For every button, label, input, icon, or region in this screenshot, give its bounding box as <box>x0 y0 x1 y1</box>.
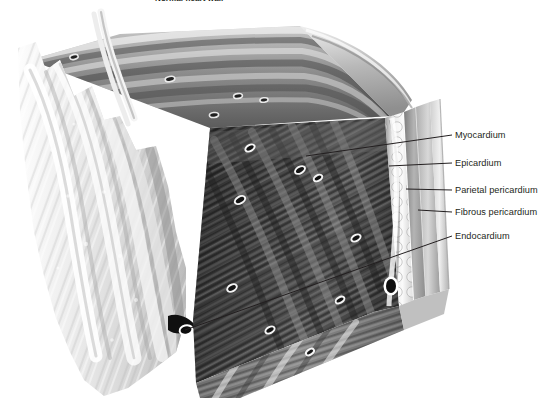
label-fibrous-pericardium: Fibrous pericardium <box>455 208 537 217</box>
label-epicardium: Epicardium <box>455 159 501 168</box>
figure-canvas: Normal heart wall <box>0 0 556 410</box>
label-myocardium: Myocardium <box>455 131 506 140</box>
heart-wall-illustration <box>0 0 556 410</box>
label-endocardium: Endocardium <box>455 232 510 241</box>
label-parietal-pericardium: Parietal pericardium <box>455 186 538 195</box>
